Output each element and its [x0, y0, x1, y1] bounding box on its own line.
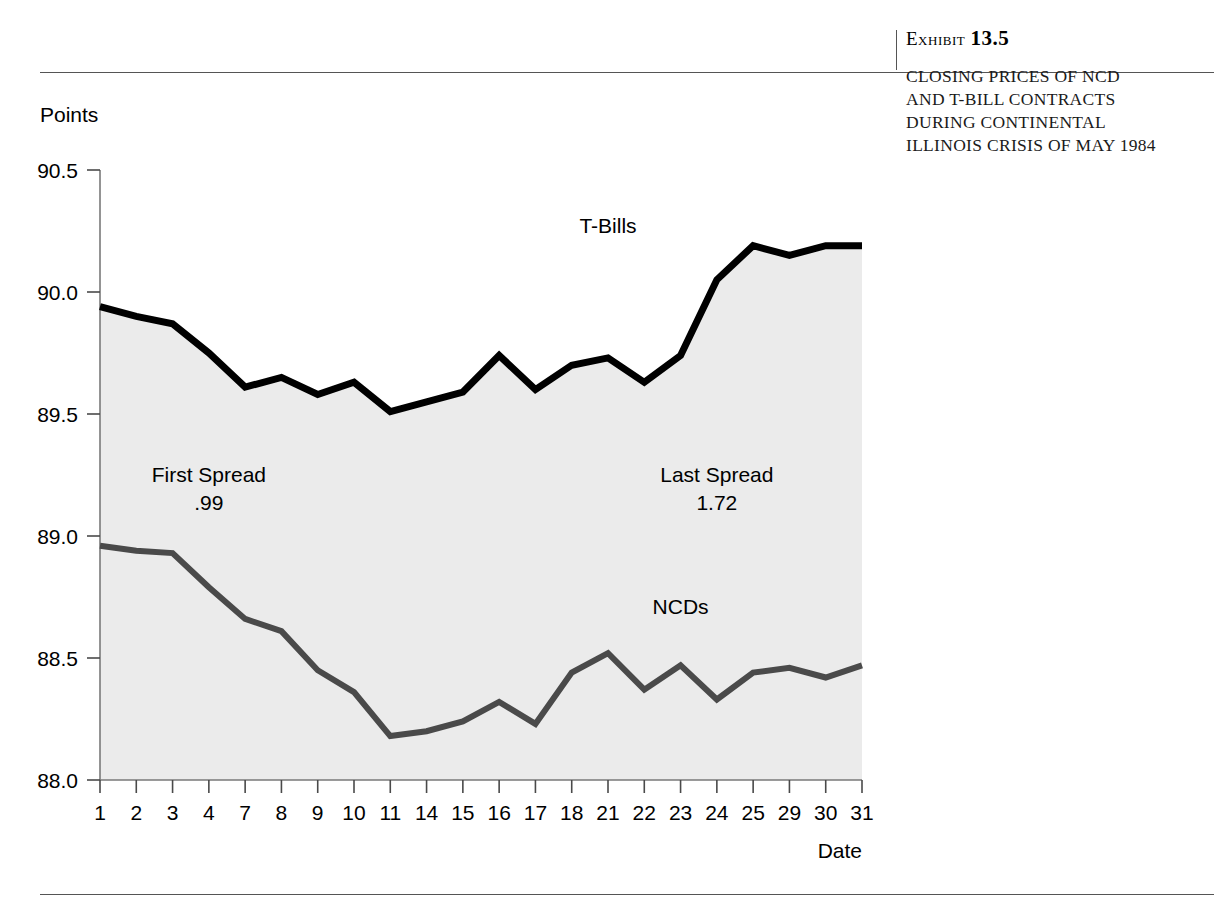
x-axis-title: Date — [818, 839, 862, 860]
first-spread-value: .99 — [194, 491, 223, 514]
exhibit-number: 13.5 — [970, 26, 1009, 50]
exhibit-title: Exhibit 13.5 — [906, 26, 1206, 51]
x-tick-label: 22 — [633, 801, 656, 824]
x-tick-label: 2 — [130, 801, 142, 824]
series-label-t-bills: T-Bills — [579, 214, 636, 237]
exhibit-label: Exhibit — [906, 28, 965, 49]
x-tick-label: 14 — [415, 801, 439, 824]
series-label-ncds: NCDs — [653, 595, 709, 618]
page-rule-bottom — [40, 894, 1214, 895]
y-tick-label: 89.5 — [37, 403, 78, 426]
x-tick-label: 25 — [741, 801, 764, 824]
y-tick-label: 88.5 — [37, 647, 78, 670]
chart-container: 88.088.589.089.590.090.51234789101114151… — [0, 0, 900, 860]
x-tick-label: 29 — [778, 801, 801, 824]
x-tick-label: 8 — [276, 801, 288, 824]
x-tick-label: 7 — [239, 801, 251, 824]
exhibit-caption: Closing Prices of NCD and T-Bill Contrac… — [906, 65, 1156, 157]
first-spread-label: First Spread — [152, 463, 266, 486]
x-tick-label: 15 — [451, 801, 474, 824]
y-tick-label: 90.0 — [37, 281, 78, 304]
x-tick-label: 30 — [814, 801, 837, 824]
x-tick-label: 4 — [203, 801, 215, 824]
x-tick-label: 24 — [705, 801, 729, 824]
y-tick-label: 88.0 — [37, 769, 78, 792]
x-tick-label: 10 — [342, 801, 365, 824]
last-spread-label: Last Spread — [660, 463, 773, 486]
y-tick-label: 90.5 — [37, 159, 78, 182]
y-axis-title: Points — [40, 103, 98, 126]
x-tick-label: 18 — [560, 801, 583, 824]
exhibit-header: Exhibit 13.5 Closing Prices of NCD and T… — [906, 26, 1206, 157]
y-tick-label: 89.0 — [37, 525, 78, 548]
x-tick-label: 3 — [167, 801, 179, 824]
x-tick-label: 17 — [524, 801, 547, 824]
x-tick-label: 11 — [379, 801, 401, 824]
x-tick-label: 16 — [487, 801, 510, 824]
x-tick-label: 21 — [596, 801, 619, 824]
x-tick-label: 23 — [669, 801, 692, 824]
x-tick-label: 9 — [312, 801, 324, 824]
line-chart: 88.088.589.089.590.090.51234789101114151… — [0, 0, 900, 860]
x-tick-label: 31 — [850, 801, 873, 824]
last-spread-value: 1.72 — [696, 491, 737, 514]
x-tick-label: 1 — [94, 801, 106, 824]
